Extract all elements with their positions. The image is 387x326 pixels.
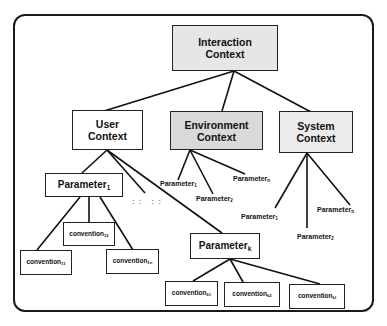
context-model-diagram: InteractionContext UserContext Environme… (0, 0, 387, 326)
node-label: convention (232, 290, 267, 297)
node-label-subscript: k2 (267, 294, 272, 299)
node-label: convention (69, 230, 104, 237)
node-label: convention (26, 258, 61, 265)
node-label: System (297, 120, 334, 132)
convention-node: conventionk2 (224, 282, 280, 307)
system-context-node: SystemContext (279, 111, 353, 153)
convention-node: conventionkl (289, 284, 345, 309)
node-label: convention (172, 289, 207, 296)
environment-parameter-label: Parameter2 (196, 195, 233, 203)
user-parameter-1-node: Parameter1 (45, 173, 123, 197)
convention-node: conventionk1 (165, 281, 218, 306)
node-label: convention (113, 257, 148, 264)
convention-node: convention11 (20, 250, 72, 275)
system-parameter-label: Parameter1 (241, 213, 278, 221)
node-label-subscript: 12 (104, 233, 109, 238)
node-label: Context (296, 132, 335, 144)
node-label-subscript: 1 (107, 184, 111, 191)
system-parameter-label: Parameter2 (297, 233, 334, 241)
node-label: Context (88, 130, 127, 142)
interaction-context-node: InteractionContext (172, 25, 278, 71)
node-label: Environment (184, 119, 248, 131)
node-label-subscript: 11 (61, 262, 65, 267)
environment-parameter-label: Parameter1 (160, 180, 197, 188)
convention-node: convention12 (63, 222, 115, 246)
convention-node: convention1n (106, 249, 159, 274)
node-label: Interaction (198, 36, 252, 48)
user-parameter-k-node: Parameterk (190, 233, 260, 259)
environment-parameter-label: Parametern (233, 175, 270, 183)
node-label: Parameter (58, 179, 107, 190)
user-context-node: UserContext (72, 110, 143, 150)
node-label-subscript: 1n (147, 261, 152, 266)
node-label: convention (298, 292, 333, 299)
node-label: Context (197, 131, 236, 143)
node-label-subscript: kl (333, 296, 337, 301)
node-label-subscript: k1 (206, 293, 211, 298)
system-parameter-label: Parametern (317, 206, 354, 214)
node-label: Parameter (199, 240, 248, 251)
node-label-subscript: k (248, 245, 252, 252)
node-label: User (96, 118, 119, 130)
node-label: Context (205, 48, 244, 60)
environment-context-node: EnvironmentContext (170, 111, 263, 150)
parameter-ellipsis: :: :: (132, 197, 165, 206)
